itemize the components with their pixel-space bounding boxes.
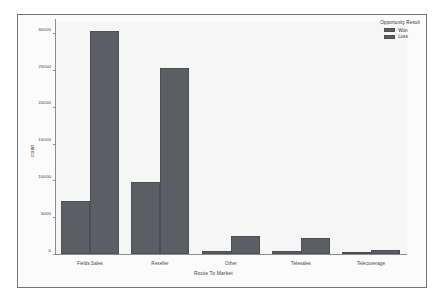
bar-won[interactable] <box>342 252 371 254</box>
y-axis-title: count <box>30 145 35 157</box>
bar-won[interactable] <box>272 251 301 254</box>
bar-won[interactable] <box>131 182 160 254</box>
y-tick-label: 0 <box>48 248 51 252</box>
y-tick-mark <box>53 217 55 218</box>
y-tick-label: 20000 <box>38 101 51 105</box>
bar-won[interactable] <box>202 251 231 254</box>
legend-item-won[interactable]: Won <box>378 28 420 33</box>
y-tick-mark <box>53 33 55 34</box>
x-tick-label: Reseller <box>151 261 168 266</box>
bar-group: Reseller <box>131 22 189 254</box>
legend-label-won: Won <box>398 28 407 33</box>
plot-frame: count 0 5000 10000 15000 20000 25000 300… <box>17 14 427 288</box>
y-tick-label: 30000 <box>38 27 51 31</box>
chart-figure: count 0 5000 10000 15000 20000 25000 300… <box>0 0 446 308</box>
x-axis-title: Route To Market <box>194 270 233 276</box>
y-tick-mark <box>53 144 55 145</box>
bar-loss[interactable] <box>371 250 400 254</box>
bar-loss[interactable] <box>231 236 260 254</box>
plot-area: 0 5000 10000 15000 20000 25000 30000 Fie… <box>55 23 407 255</box>
y-tick-label: 10000 <box>38 175 51 179</box>
x-tick-label: Telesales <box>291 261 311 266</box>
bar-loss[interactable] <box>90 31 119 254</box>
legend-swatch-won <box>384 28 395 32</box>
bar-won[interactable] <box>61 201 90 254</box>
x-axis-line <box>55 254 407 255</box>
legend-label-loss: Loss <box>398 34 408 39</box>
bar-group: Other <box>202 22 260 254</box>
x-tick-label: Other <box>225 261 237 266</box>
y-tick-mark <box>53 254 55 255</box>
y-tick-label: 5000 <box>41 212 51 216</box>
y-tick-label: 25000 <box>38 64 51 68</box>
y-tick-mark <box>53 180 55 181</box>
legend-swatch-loss <box>384 35 395 39</box>
x-tick-label: Fields Sales <box>77 261 103 266</box>
bar-group: Telesales <box>272 22 330 254</box>
legend-item-loss[interactable]: Loss <box>378 34 420 39</box>
y-tick-mark <box>53 70 55 71</box>
y-axis-line <box>55 19 56 255</box>
y-tick-mark <box>53 107 55 108</box>
legend: Opportunity Result Won Loss <box>378 20 420 41</box>
bar-loss[interactable] <box>301 238 330 254</box>
bar-group: Telecoverage <box>342 22 400 254</box>
legend-title: Opportunity Result <box>378 20 420 25</box>
bar-loss[interactable] <box>160 68 189 254</box>
y-tick-label: 15000 <box>38 138 51 142</box>
x-tick-label: Telecoverage <box>357 261 385 266</box>
bar-group: Fields Sales <box>61 22 119 254</box>
